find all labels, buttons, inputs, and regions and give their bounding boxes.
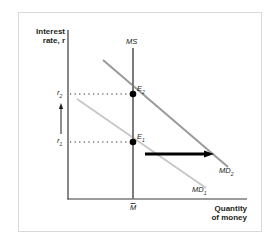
md2-label: MD2 [219,166,233,177]
e1-label: E1 [137,132,145,143]
x-axis-label: Quantity of money [205,204,247,222]
r1-label: r1 [57,136,62,147]
e2-label-sub: 2 [142,89,145,95]
y-axis-label-line1: Interest [35,27,65,36]
md2-label-main: MD [219,166,231,175]
y-axis-label: Interest rate, r [35,27,65,45]
e1-label-sub: 1 [142,137,145,143]
md1-label-main: MD [192,185,204,194]
md1-label: MD1 [192,185,206,196]
r2-label: r2 [57,88,62,99]
y-axis-label-line2: rate, r [35,36,65,45]
e1-point [130,139,137,146]
md2-curve [103,60,228,167]
r1-label-sub: 1 [60,141,63,147]
md1-curve [77,99,206,188]
md1-label-sub: 1 [204,190,207,196]
rate-rise-arrow-head [59,103,63,109]
x-axis-label-line2: of money [205,213,247,222]
e2-label: E2 [137,84,145,95]
m-bar-label: M [130,203,136,212]
ms-label: MS [126,37,137,46]
e2-point [130,91,137,98]
x-axis-label-line1: Quantity [205,204,247,213]
r2-label-sub: 2 [60,93,63,99]
md2-label-sub: 2 [231,171,234,177]
